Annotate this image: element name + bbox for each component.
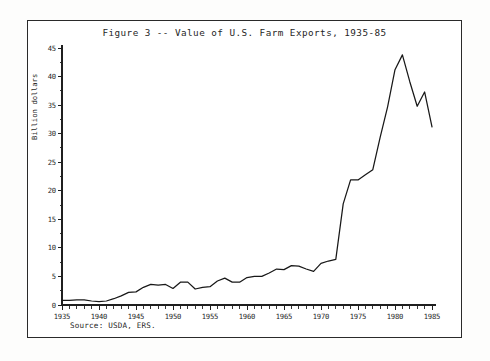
x-tick-label: 1935 bbox=[54, 312, 71, 321]
figure-page: Figure 3 -- Value of U.S. Farm Exports, … bbox=[0, 0, 490, 361]
data-series-group bbox=[62, 55, 432, 302]
x-tick-label: 1945 bbox=[128, 312, 145, 321]
x-tick-label: 1955 bbox=[202, 312, 219, 321]
x-tick-label: 1985 bbox=[424, 312, 441, 321]
y-tick-label: 35 bbox=[48, 101, 56, 110]
x-axis: 1935194019451950195519601965197019751980… bbox=[54, 305, 441, 321]
y-tick-label: 0 bbox=[52, 301, 56, 310]
y-tick-label: 25 bbox=[48, 158, 56, 167]
y-axis: 051015202530354045 bbox=[48, 44, 62, 310]
y-tick-label: 10 bbox=[48, 243, 56, 252]
data-line-farm-exports bbox=[62, 55, 432, 302]
x-tick-label: 1980 bbox=[387, 312, 404, 321]
y-tick-label: 15 bbox=[48, 215, 56, 224]
x-tick-label: 1940 bbox=[91, 312, 108, 321]
x-tick-label: 1970 bbox=[313, 312, 330, 321]
x-tick-label: 1965 bbox=[276, 312, 293, 321]
y-tick-label: 5 bbox=[52, 272, 56, 281]
line-chart-plot: 051015202530354045 193519401945195019551… bbox=[0, 0, 490, 361]
y-tick-label: 40 bbox=[48, 72, 56, 81]
y-tick-label: 30 bbox=[48, 129, 56, 138]
x-tick-label: 1960 bbox=[239, 312, 256, 321]
x-tick-label: 1950 bbox=[165, 312, 182, 321]
y-tick-label: 45 bbox=[48, 44, 56, 53]
x-tick-label: 1975 bbox=[350, 312, 367, 321]
y-tick-label: 20 bbox=[48, 186, 56, 195]
